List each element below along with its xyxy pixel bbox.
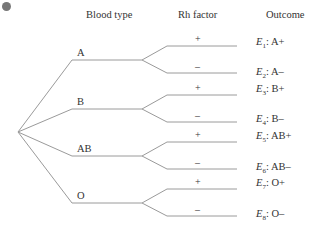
outcome-e3: E3: B+ [256,83,284,97]
rh-positive-b: + [195,82,201,93]
rh-negative-a: – [195,61,200,72]
outcome-e2: E2: A– [256,66,284,80]
rh-negative-o: – [195,204,200,215]
blood-type-a-label: A [77,47,85,58]
outcome-e8: E8: O– [256,208,284,222]
rh-negative-b: – [195,110,200,121]
rh-positive-a: + [195,33,201,44]
outcome-e6: E6: AB– [256,161,291,175]
header-blood-type: Blood type [86,9,132,20]
blood-type-ab-label: AB [77,143,92,154]
outcome-e1: E1: A+ [256,36,284,50]
header-rh-factor: Rh factor [178,9,217,20]
rh-positive-ab: + [195,129,201,140]
outcome-e7: E7: O+ [256,177,285,191]
outcome-e4: E4: B– [256,113,284,127]
blood-type-o-label: O [77,190,85,201]
header-outcome: Outcome [266,9,305,20]
rh-negative-ab: – [195,157,200,168]
outcome-e5: E5: AB+ [256,130,291,144]
rh-positive-o: + [195,176,201,187]
blood-type-b-label: B [77,96,84,107]
